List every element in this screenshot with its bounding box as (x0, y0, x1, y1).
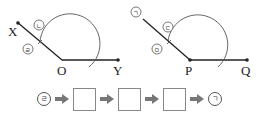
right-arrow-icon (55, 94, 69, 104)
answer-blank-3[interactable] (163, 88, 186, 111)
point-y (116, 58, 120, 62)
right-arrow-icon (100, 94, 114, 104)
right-arrow-icon (145, 94, 159, 104)
label-o: O (57, 63, 66, 78)
label-p: P (185, 63, 192, 78)
mark-nieun: ㄴ (36, 22, 42, 29)
mark-giyeok: ㄱ (133, 9, 139, 16)
right-arrow-icon (190, 94, 204, 104)
label-x: X (8, 24, 18, 39)
right-angle-diagram: P Q ㄱ ㄷ ㅁ (131, 7, 251, 78)
mark-rieul: ㄹ (25, 46, 31, 53)
answer-blank-1[interactable] (73, 88, 96, 111)
answer-blank-2[interactable] (118, 88, 141, 111)
mark-digeut: ㄷ (165, 24, 171, 31)
label-y: Y (113, 63, 123, 78)
compass-arc (168, 15, 228, 67)
sequence-end: ㄱ (208, 92, 222, 106)
left-angle-diagram: X O Y ㄴ ㄹ (8, 14, 123, 78)
construction-sequence: ㄹ ㄱ (37, 86, 222, 112)
mark-mieum: ㅁ (154, 46, 160, 53)
label-q: Q (241, 63, 251, 78)
compass-arc (40, 14, 100, 67)
point-p (188, 58, 192, 62)
point-q (245, 58, 249, 62)
sequence-start: ㄹ (37, 92, 51, 106)
